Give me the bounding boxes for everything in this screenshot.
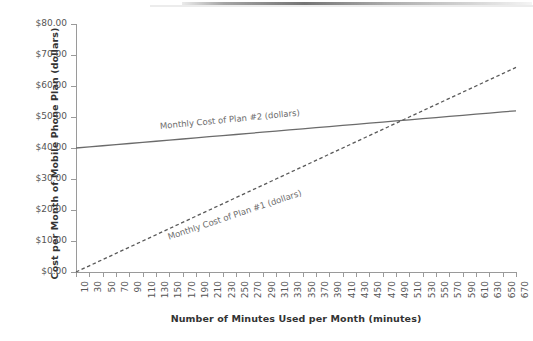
chart-figure: Cost per Month of Mobile Phone Plan (dol… [0, 0, 533, 341]
x-axis-title: Number of Minutes Used per Month (minute… [76, 313, 516, 324]
series-line-plan-1 [76, 67, 516, 272]
series-layer [0, 0, 533, 341]
